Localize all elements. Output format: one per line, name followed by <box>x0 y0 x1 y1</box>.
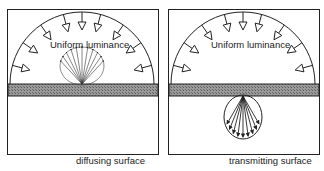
diagram-canvas: Uniform luminance Uniform luminance <box>0 0 324 171</box>
diffusing-panel: Uniform luminance <box>8 10 159 155</box>
uniform-luminance-label: Uniform luminance <box>50 39 129 50</box>
diffusing-surface-caption: diffusing surface <box>76 155 145 166</box>
transmitted-rays <box>227 96 259 137</box>
surface-strip <box>8 84 158 96</box>
transmitting-panel: Uniform luminance <box>169 10 320 155</box>
transmitting-surface-caption: transmitting surface <box>229 155 312 166</box>
panel-frame <box>169 10 320 155</box>
reflected-rays <box>61 47 104 84</box>
uniform-luminance-label: Uniform luminance <box>211 39 290 50</box>
surface-strip <box>169 84 319 96</box>
